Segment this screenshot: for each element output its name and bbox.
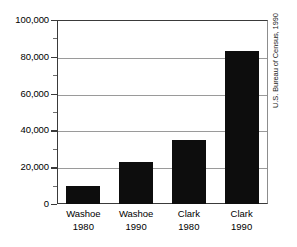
y-axis-tick-label: 60,000 <box>0 89 49 99</box>
y-axis-tick-labels: 020,00040,00060,00080,000100,000 <box>0 20 54 204</box>
bar <box>172 140 206 204</box>
y-axis-tick-label: 40,000 <box>0 125 49 135</box>
bar-slot <box>119 20 153 204</box>
y-axis-tick-label: 80,000 <box>0 52 49 62</box>
category-name: Clark <box>207 208 277 221</box>
y-axis-tick-label: 20,000 <box>0 162 49 172</box>
bar <box>225 51 259 204</box>
bar <box>66 186 100 204</box>
x-axis-category-label: Clark1990 <box>207 208 277 233</box>
x-axis-category-labels: Washoe1980Washoe1990Clark1980Clark1990 <box>57 208 268 242</box>
bars-layer <box>57 20 268 204</box>
bar-chart-figure: 020,00040,00060,00080,000100,000 Washoe1… <box>0 0 297 247</box>
bar-slot <box>225 20 259 204</box>
bar-slot <box>66 20 100 204</box>
y-axis-tick-label: 100,000 <box>0 15 49 25</box>
bar-slot <box>172 20 206 204</box>
y-axis-major-tick <box>51 204 57 205</box>
source-caption: U.S. Bureau of Census, 1990 <box>272 0 280 108</box>
bar <box>119 162 153 204</box>
category-year: 1990 <box>207 221 277 234</box>
y-axis-tick-label: 0 <box>0 199 49 209</box>
